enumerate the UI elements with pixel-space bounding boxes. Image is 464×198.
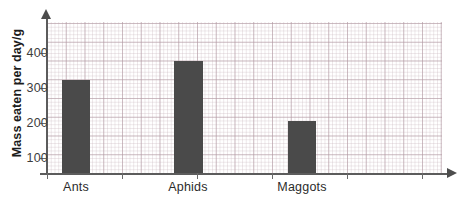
- x-axis-line: [40, 173, 450, 175]
- y-tick-label-100: 100: [14, 152, 48, 165]
- bar-maggots: [288, 121, 316, 174]
- x-tick-mark-1: [122, 173, 123, 179]
- y-axis-arrow-icon: [41, 9, 51, 19]
- x-tick-mark-5: [422, 173, 423, 179]
- x-axis-label-ants: Ants: [46, 180, 106, 194]
- y-tick-label-300: 300: [14, 82, 48, 95]
- bar-ants: [62, 80, 90, 174]
- y-tick-label-200: 200: [14, 117, 48, 130]
- x-axis-label-maggots: Maggots: [272, 180, 332, 194]
- bar-chart: Mass eaten per day/g 400 300 200 100 Ant…: [0, 0, 464, 198]
- x-tick-mark-4: [347, 173, 348, 179]
- x-tick-mark-2: [197, 173, 198, 179]
- y-tick-label-400: 400: [14, 47, 48, 60]
- plot-grid-area: [47, 22, 442, 173]
- x-axis-arrow-icon: [447, 168, 457, 178]
- x-axis-label-aphids: Aphids: [158, 180, 218, 194]
- x-tick-mark-3: [272, 173, 273, 179]
- bar-aphids: [174, 61, 203, 173]
- x-tick-mark-0: [47, 173, 48, 179]
